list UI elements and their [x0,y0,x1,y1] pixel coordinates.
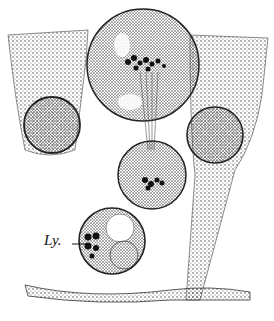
lower-dividing-cell [118,141,186,209]
cell-illustration: Ly. [0,0,274,321]
left-round-cell [24,97,80,153]
stippled-drawing [0,0,274,321]
upper-dividing-cell [87,9,199,121]
right-round-cell [187,107,243,163]
basal-membrane [25,285,250,302]
label-ly: Ly. [44,232,61,249]
